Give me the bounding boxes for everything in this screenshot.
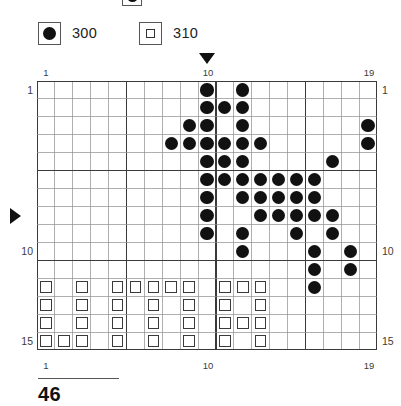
cell-symbol-300[interactable] [200, 83, 213, 96]
filled-circle-icon [127, 0, 138, 2]
cell-symbol-310[interactable] [76, 299, 88, 311]
axis-tick-label: 19 [364, 360, 375, 371]
cell-symbol-300[interactable] [200, 155, 213, 168]
footer-divider [38, 378, 119, 379]
cell-symbol-310[interactable] [148, 299, 160, 311]
cell-symbol-300[interactable] [290, 227, 303, 240]
cell-symbol-300[interactable] [326, 209, 339, 222]
cell-symbol-310[interactable] [219, 335, 231, 347]
cell-symbol-300[interactable] [361, 137, 374, 150]
left-row-marker-icon [10, 208, 21, 224]
cell-symbol-310[interactable] [40, 281, 52, 293]
cell-symbol-310[interactable] [165, 281, 177, 293]
cell-symbol-300[interactable] [200, 137, 213, 150]
cell-symbol-300[interactable] [326, 227, 339, 240]
cell-symbol-310[interactable] [76, 281, 88, 293]
cell-symbol-310[interactable] [40, 299, 52, 311]
cell-symbol-300[interactable] [236, 83, 249, 96]
cell-symbol-300[interactable] [308, 209, 321, 222]
cell-symbol-310[interactable] [183, 335, 195, 347]
legend-swatch-cutoff [122, 0, 142, 6]
axis-tick-label: 10 [382, 245, 394, 257]
top-column-marker-icon [199, 53, 215, 64]
cell-symbol-300[interactable] [290, 209, 303, 222]
axis-tick-label: 10 [21, 245, 33, 257]
page-number: 46 [38, 383, 61, 406]
cell-symbol-310[interactable] [255, 281, 267, 293]
cell-symbol-310[interactable] [112, 317, 124, 329]
cell-symbol-300[interactable] [183, 137, 196, 150]
cell-symbol-300[interactable] [308, 245, 321, 258]
cell-symbol-310[interactable] [148, 335, 160, 347]
cell-symbol-300[interactable] [200, 119, 213, 132]
cell-symbol-310[interactable] [148, 281, 160, 293]
axis-tick-label: 1 [43, 360, 48, 371]
filled-circle-icon [43, 27, 56, 40]
cell-symbol-300[interactable] [361, 119, 374, 132]
legend-entry-300[interactable]: 300 [38, 22, 97, 45]
cell-symbol-300[interactable] [200, 191, 213, 204]
cell-symbol-310[interactable] [183, 299, 195, 311]
cell-symbol-310[interactable] [76, 335, 88, 347]
cell-symbol-310[interactable] [219, 281, 231, 293]
axis-tick-label: 19 [364, 67, 375, 78]
cell-symbol-310[interactable] [219, 317, 231, 329]
cell-symbol-300[interactable] [200, 173, 213, 186]
cell-symbol-300[interactable] [200, 101, 213, 114]
cell-symbol-310[interactable] [40, 335, 52, 347]
legend: 300 310 [38, 18, 240, 48]
cell-symbol-300[interactable] [200, 209, 213, 222]
cell-symbol-310[interactable] [237, 317, 249, 329]
cell-symbol-310[interactable] [148, 317, 160, 329]
axis-tick-label: 1 [27, 84, 33, 96]
axis-tick-label: 10 [203, 360, 214, 371]
cell-symbol-300[interactable] [344, 245, 357, 258]
cell-symbol-310[interactable] [183, 281, 195, 293]
axis-tick-label: 15 [382, 335, 394, 347]
cell-symbol-310[interactable] [255, 317, 267, 329]
axis-tick-label: 15 [21, 335, 33, 347]
cell-symbol-310[interactable] [112, 299, 124, 311]
cell-symbol-310[interactable] [255, 335, 267, 347]
axis-tick-label: 10 [203, 67, 214, 78]
cell-symbol-310[interactable] [58, 335, 70, 347]
cell-symbol-310[interactable] [112, 335, 124, 347]
cell-symbol-310[interactable] [219, 299, 231, 311]
cell-symbol-310[interactable] [183, 317, 195, 329]
cell-symbol-310[interactable] [130, 281, 142, 293]
cell-symbol-310[interactable] [40, 317, 52, 329]
cell-symbol-310[interactable] [112, 281, 124, 293]
cell-symbol-310[interactable] [237, 281, 249, 293]
axis-tick-label: 1 [382, 84, 388, 96]
axis-tick-label: 1 [43, 67, 48, 78]
pattern-chart-grid[interactable] [37, 81, 377, 350]
legend-label-300: 300 [72, 25, 97, 41]
cell-symbol-300[interactable] [183, 119, 196, 132]
legend-entry-310[interactable]: 310 [139, 22, 198, 45]
cell-symbol-300[interactable] [165, 137, 178, 150]
legend-swatch-300 [38, 22, 61, 45]
cell-symbol-310[interactable] [76, 317, 88, 329]
open-square-icon [146, 29, 155, 38]
legend-label-310: 310 [173, 25, 198, 41]
legend-swatch-310 [139, 22, 162, 45]
cell-symbol-300[interactable] [344, 263, 357, 276]
cell-symbol-310[interactable] [255, 299, 267, 311]
cell-symbol-300[interactable] [308, 191, 321, 204]
cell-symbol-300[interactable] [308, 281, 321, 294]
cell-symbol-300[interactable] [200, 227, 213, 240]
cell-symbol-300[interactable] [326, 155, 339, 168]
legend-entry-cutoff [122, 0, 242, 6]
cell-symbol-300[interactable] [308, 263, 321, 276]
